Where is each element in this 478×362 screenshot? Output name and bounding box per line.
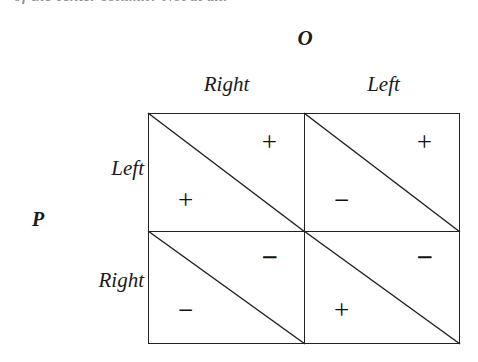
column-player-label: O (275, 26, 335, 51)
caption-text: of the center column? Not at all. (14, 0, 466, 5)
payoff-matrix-figure: of the center column? Not at all. O P Ri… (0, 0, 478, 362)
cell-diagonal-line (304, 231, 460, 344)
cell-diagonal-line (148, 113, 305, 232)
column-payoff: + (262, 129, 277, 156)
matrix-cell-right-right: − − (148, 231, 305, 344)
row-player-label: P (18, 208, 58, 231)
row-header-left: Left (48, 156, 144, 181)
column-header-right: Right (148, 72, 305, 97)
matrix-cell-right-left: − + (304, 231, 460, 344)
cell-diagonal-line (304, 113, 460, 232)
row-payoff: + (334, 297, 349, 324)
cell-diagonal-line (148, 231, 305, 344)
matrix-cell-left-left: + − (304, 113, 460, 232)
matrix-horizontal-divider (148, 231, 460, 232)
matrix-vertical-divider (304, 113, 305, 344)
row-payoff: + (178, 187, 193, 214)
column-payoff: + (417, 129, 432, 156)
matrix-cell-left-right: + + (148, 113, 305, 232)
payoff-matrix-grid: + + + − − − − + (148, 113, 460, 344)
column-payoff: − (261, 243, 277, 272)
row-header-right: Right (48, 268, 144, 293)
column-header-left: Left (305, 72, 462, 97)
row-payoff: − (334, 187, 349, 214)
cropped-caption-strip: of the center column? Not at all. (0, 0, 478, 10)
row-payoff: − (178, 297, 193, 324)
column-payoff: − (416, 243, 432, 272)
